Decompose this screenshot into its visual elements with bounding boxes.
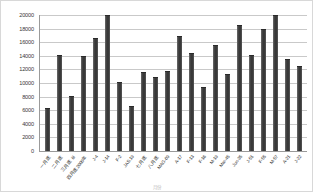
y-tick-label-20000: 20000 — [19, 12, 34, 18]
y-tick-label-6000: 6000 — [22, 107, 34, 113]
chart-container: 0200040006000800010000120001400016000180… — [0, 0, 313, 192]
bar[interactable] — [201, 87, 206, 151]
y-tick-label-12000: 12000 — [19, 66, 34, 72]
x-tick-label: J-14 — [102, 154, 111, 164]
x-tick-label: F-55 — [257, 154, 267, 164]
bar[interactable] — [249, 55, 254, 151]
bar-slot — [197, 15, 209, 151]
y-tick-label-14000: 14000 — [19, 53, 34, 59]
y-axis-tick-labels: 0200040006000800010000120001400016000180… — [1, 15, 37, 151]
bar-slot — [221, 15, 233, 151]
bar-slot — [269, 15, 281, 151]
bar-slot — [89, 15, 101, 151]
y-tick-label-18000: 18000 — [19, 26, 34, 32]
bar-slot — [113, 15, 125, 151]
bar-slot — [101, 15, 113, 151]
bar-slot — [149, 15, 161, 151]
bar-slot — [209, 15, 221, 151]
bar-slot — [233, 15, 245, 151]
y-tick-label-16000: 16000 — [19, 39, 34, 45]
bar[interactable] — [69, 96, 74, 151]
x-axis-title: 月份 — [1, 184, 312, 190]
bar-slot — [65, 15, 77, 151]
x-tick-label: 七月底 — [134, 154, 148, 169]
bar-slot — [53, 15, 65, 151]
bar[interactable] — [237, 25, 242, 151]
x-tick-label: F-2 — [115, 154, 123, 162]
x-tick-label: A-21 — [281, 154, 291, 164]
bar[interactable] — [225, 74, 230, 151]
bar[interactable] — [141, 72, 146, 151]
bar-series — [39, 15, 307, 151]
bar[interactable] — [285, 59, 290, 151]
bar-slot — [245, 15, 257, 151]
x-tick-label: M-57 — [269, 154, 279, 165]
bar[interactable] — [45, 108, 50, 151]
x-tick-label: J-22 — [294, 154, 303, 164]
bar[interactable] — [129, 106, 134, 151]
bar[interactable] — [57, 55, 62, 151]
y-tick-label-4000: 4000 — [22, 121, 34, 127]
x-tick-label: Jun-35 — [231, 154, 243, 168]
x-axis-tick-labels: 一月底二月底三月底 III四月底2000年J-4J-14F-2JAS.19七月底… — [39, 153, 307, 187]
bar-slot — [185, 15, 197, 151]
bar[interactable] — [81, 56, 86, 151]
bar[interactable] — [273, 15, 278, 151]
bar[interactable] — [177, 36, 182, 151]
x-tick-label: F-16 — [197, 154, 207, 164]
bar[interactable] — [189, 53, 194, 151]
y-tick-label-0: 0 — [31, 148, 34, 154]
x-tick-label: M-19 — [209, 154, 219, 165]
y-tick-label-8000: 8000 — [22, 94, 34, 100]
x-tick-label: F-13 — [185, 154, 195, 164]
x-tick-label: 一月底 — [38, 154, 52, 169]
bar-slot — [257, 15, 269, 151]
bar[interactable] — [213, 45, 218, 151]
bar-slot — [125, 15, 137, 151]
x-tick-label: J-51 — [246, 154, 255, 164]
bar[interactable] — [153, 77, 158, 151]
bar-slot — [137, 15, 149, 151]
bar-slot — [161, 15, 173, 151]
bar[interactable] — [117, 82, 122, 151]
bar[interactable] — [297, 66, 302, 151]
bar-slot — [173, 15, 185, 151]
bar-slot — [77, 15, 89, 151]
bar[interactable] — [105, 15, 110, 151]
y-tick-label-10000: 10000 — [19, 80, 34, 86]
bar-slot — [293, 15, 305, 151]
bar[interactable] — [165, 71, 170, 151]
bar[interactable] — [93, 38, 98, 151]
plot-area — [39, 15, 307, 151]
gridline-0 — [39, 151, 307, 152]
x-tick-label: JAS.19 — [122, 154, 135, 168]
y-tick-label-2000: 2000 — [22, 134, 34, 140]
bar-slot — [41, 15, 53, 151]
bar[interactable] — [261, 29, 266, 151]
x-tick-label: A-17 — [173, 154, 183, 164]
x-tick-label: Mar-45 — [218, 154, 231, 168]
x-tick-label: J-4 — [91, 154, 99, 162]
bar-slot — [281, 15, 293, 151]
